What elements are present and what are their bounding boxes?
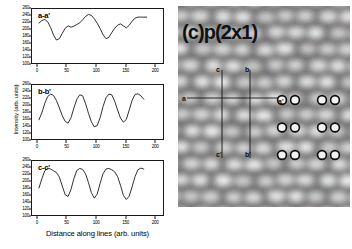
overlay-atom-circle xyxy=(331,151,340,160)
plot-label-0: a-a' xyxy=(38,12,50,20)
x-tick-mark xyxy=(66,216,67,219)
x-tick-mark xyxy=(96,216,97,219)
stm-label-b-prime: b' xyxy=(245,151,251,158)
x-tick-label: 0 xyxy=(36,221,38,226)
plot-frame-2: c-c' xyxy=(31,160,164,216)
x-tick-label: 150 xyxy=(122,69,129,74)
overlay-atom-circle xyxy=(331,123,340,132)
plot-curve-1 xyxy=(32,85,163,139)
stm-label-c-prime: c' xyxy=(216,151,222,158)
x-tick-mark xyxy=(36,140,37,143)
x-tick-mark xyxy=(66,140,67,143)
x-tick-mark xyxy=(36,216,37,219)
x-tick-label: 100 xyxy=(93,145,100,150)
plot-a-a-prime: 100120140160180200220240260 a-a' 0501001… xyxy=(0,4,176,82)
overlay-atom-circle xyxy=(278,123,287,132)
overlay-atom-circle xyxy=(291,123,300,132)
line-plot-stack: 100120140160180200220240260 a-a' 0501001… xyxy=(0,0,176,249)
stm-image-panel: (c)p(2x1) a a' c c' b b' xyxy=(178,6,350,207)
x-axis-label: Distance along lines (arb. units) xyxy=(31,229,164,238)
x-tick-mark xyxy=(155,64,156,67)
plot-frame-1: b-b' xyxy=(31,84,164,140)
x-tick-mark xyxy=(36,64,37,67)
x-tick-mark xyxy=(96,140,97,143)
x-tick-label: 200 xyxy=(152,145,159,150)
x-tick-label: 200 xyxy=(152,69,159,74)
overlay-atom-circle xyxy=(331,96,340,105)
plot-label-2: c-c' xyxy=(38,164,50,172)
x-axis-ticks-0: 050100150200 xyxy=(31,64,164,77)
x-tick-mark xyxy=(155,140,156,143)
stm-label-c: c xyxy=(216,66,220,73)
x-tick-label: 150 xyxy=(122,221,129,226)
overlay-atom-circle xyxy=(291,96,300,105)
x-tick-mark xyxy=(125,216,126,219)
x-axis-ticks-2: 050100150200 xyxy=(31,216,164,229)
x-tick-label: 100 xyxy=(93,69,100,74)
x-tick-mark xyxy=(125,64,126,67)
y-axis-label: Intensity (arb. units) xyxy=(12,74,19,146)
plot-label-1: b-b' xyxy=(38,88,51,96)
stm-caption: (c)p(2x1) xyxy=(182,22,257,42)
overlay-atom-circle xyxy=(318,151,327,160)
overlay-atom-circle xyxy=(278,151,287,160)
x-tick-label: 200 xyxy=(152,221,159,226)
overlay-atom-circle xyxy=(318,123,327,132)
figure-panel: 100120140160180200220240260 a-a' 0501001… xyxy=(0,0,352,249)
plot-curve-2 xyxy=(32,161,163,215)
overlay-atom-circle xyxy=(291,151,300,160)
y-axis-ticks-0: 100120140160180200220240260 xyxy=(0,4,31,68)
plot-curve-0 xyxy=(32,9,163,63)
x-axis-ticks-1: 050100150200 xyxy=(31,140,164,153)
x-tick-mark xyxy=(155,216,156,219)
x-tick-label: 0 xyxy=(36,145,38,150)
plot-frame-0: a-a' xyxy=(31,8,164,64)
x-tick-label: 100 xyxy=(93,221,100,226)
x-tick-label: 50 xyxy=(64,145,69,150)
stm-label-b: b xyxy=(245,66,249,73)
y-axis-ticks-2: 100120140160180200220240260 xyxy=(0,156,31,220)
x-tick-label: 50 xyxy=(64,69,69,74)
x-tick-mark xyxy=(125,140,126,143)
x-tick-label: 150 xyxy=(122,145,129,150)
x-tick-label: 0 xyxy=(36,69,38,74)
plot-b-b-prime: 100120140160180200220240260 b-b' 0501001… xyxy=(0,80,176,158)
plot-c-c-prime: 100120140160180200220240260 c-c' 0501001… xyxy=(0,156,176,228)
stm-label-a: a xyxy=(182,95,186,102)
stm-label-a-prime: a' xyxy=(278,98,284,105)
x-tick-mark xyxy=(66,64,67,67)
x-tick-label: 50 xyxy=(64,221,69,226)
x-tick-mark xyxy=(96,64,97,67)
overlay-atom-circle xyxy=(318,96,327,105)
